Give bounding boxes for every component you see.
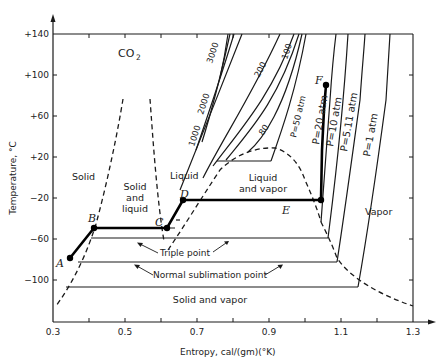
title-subscript: 2 xyxy=(136,53,141,62)
y-tick-label: −100 xyxy=(24,275,49,285)
isobar-label-1000: 1000 xyxy=(186,124,202,148)
axes: +140 +100 +60 +20 −20 −60 −100 0.3 0.5 0… xyxy=(8,14,436,357)
x-tick-label: 1.1 xyxy=(334,327,348,337)
y-tick-label: −20 xyxy=(30,193,49,203)
point-b-label: B xyxy=(87,212,96,225)
title-base: CO xyxy=(118,47,135,60)
y-tick-label: +140 xyxy=(24,29,49,39)
point-f-label: F xyxy=(314,74,323,87)
horizontal-lines xyxy=(66,161,358,287)
region-vapor: Vapor xyxy=(365,206,392,217)
point-a-marker xyxy=(67,255,73,261)
x-axis-title: Entropy, cal/(gm)(°K) xyxy=(180,347,276,357)
isobar-label-80: 80 xyxy=(256,123,270,138)
x-axis-arrow-icon xyxy=(428,320,436,325)
svg-text:liquid: liquid xyxy=(122,203,148,214)
phase-diagram: +140 +100 +60 +20 −20 −60 −100 0.3 0.5 0… xyxy=(0,0,446,363)
point-f-marker xyxy=(323,82,329,88)
isobars xyxy=(180,34,390,287)
svg-text:and vapor: and vapor xyxy=(239,183,287,194)
region-solid: Solid xyxy=(72,171,95,182)
point-b-marker xyxy=(91,225,97,231)
y-axis-title: Temperature, °C xyxy=(8,141,18,216)
region-solid-liquid: Solid xyxy=(123,181,146,192)
region-liquid: Liquid xyxy=(170,170,199,181)
y-tick-label: +60 xyxy=(30,111,49,121)
x-tick-label: 1.3 xyxy=(406,327,420,337)
x-tick-label: 0.3 xyxy=(46,327,60,337)
y-tick-label: −60 xyxy=(30,234,49,244)
point-d-label: D xyxy=(179,188,189,201)
normal-sublimation-point-label: Normal sublimation point xyxy=(153,270,267,280)
y-tick-label: +100 xyxy=(24,70,49,80)
y-tick-label: +20 xyxy=(30,152,49,162)
svg-text:and: and xyxy=(126,192,144,203)
y-axis-arrow-icon xyxy=(51,14,56,22)
x-tick-label: 0.9 xyxy=(262,327,277,337)
point-e-marker xyxy=(318,197,324,203)
isobar-label-1: P=1 atm xyxy=(361,112,379,157)
isobar-1 xyxy=(358,34,390,287)
x-tick-label: 0.7 xyxy=(190,327,204,337)
isobar-labels: 3000 2000 1000 200 100 80 P=50 atm P=20 … xyxy=(186,41,379,157)
isobar-label-100: 100 xyxy=(279,42,294,61)
annotations: Triple point Normal sublimation point xyxy=(134,241,283,280)
x-tick-label: 0.5 xyxy=(118,327,132,337)
diagram-title: CO 2 xyxy=(118,47,141,62)
point-c-label: C xyxy=(155,216,164,229)
point-a-label: A xyxy=(55,257,64,270)
region-liquid-vapor: Liquid xyxy=(249,172,278,183)
point-c-marker xyxy=(164,225,170,231)
isobar-label-3000: 3000 xyxy=(204,41,220,65)
region-solid-vapor: Solid and vapor xyxy=(173,294,247,305)
solid-boundary-dashed xyxy=(56,99,123,306)
triple-point-label: Triple point xyxy=(159,248,210,258)
point-e-label: E xyxy=(281,204,290,217)
